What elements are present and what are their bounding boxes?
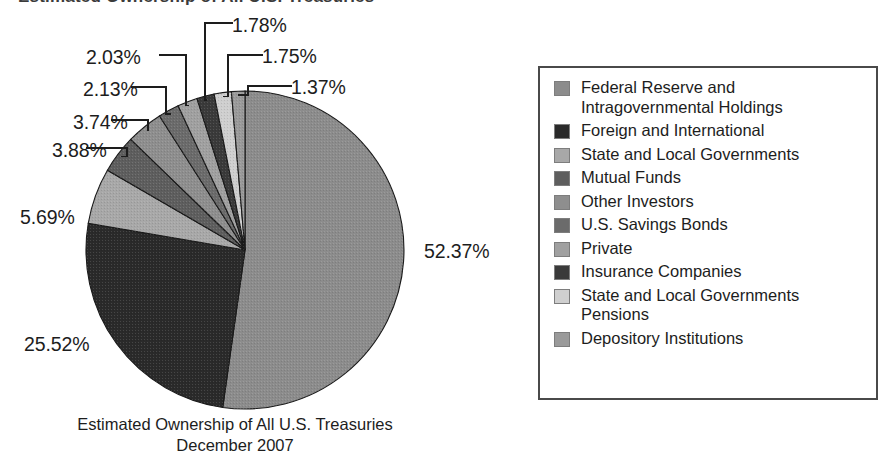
legend-swatch-icon — [554, 148, 570, 163]
caption-line-2: December 2007 — [0, 435, 470, 456]
pie-percent-label: 2.03% — [86, 46, 141, 69]
legend-swatch-icon — [554, 171, 570, 186]
pie-percent-label: 1.75% — [262, 45, 317, 68]
chart-legend: Federal Reserve and Intragovernmental Ho… — [538, 66, 878, 400]
legend-swatch-icon — [554, 195, 570, 210]
pie-percent-label: 1.78% — [232, 14, 287, 37]
legend-item-label: Insurance Companies — [581, 262, 742, 282]
pie-chart-area: 52.37%25.52%5.69%3.88%3.74%2.13%2.03%1.7… — [0, 0, 530, 470]
pie-percent-label: 2.13% — [83, 78, 138, 101]
legend-swatch-icon — [554, 81, 570, 96]
chart-figure: Estimated Ownership of All U.S. Treasuri… — [0, 0, 892, 470]
legend-swatch-icon — [554, 265, 570, 280]
pie-percent-label: 52.37% — [424, 240, 490, 263]
legend-swatch-icon — [554, 332, 570, 347]
legend-item[interactable]: Mutual Funds — [554, 168, 868, 188]
legend-item-label: Private — [581, 239, 632, 259]
legend-item[interactable]: Foreign and International — [554, 121, 868, 141]
legend-item[interactable]: Federal Reserve and Intragovernmental Ho… — [554, 78, 868, 117]
legend-item[interactable]: U.S. Savings Bonds — [554, 215, 868, 235]
legend-item-label: Other Investors — [581, 192, 694, 212]
leader-line — [223, 55, 263, 97]
legend-swatch-icon — [554, 242, 570, 257]
legend-item-label: Foreign and International — [581, 121, 764, 141]
pie-slice-texture — [86, 223, 245, 407]
pie-texture-overlay — [86, 91, 404, 409]
caption-line-1: Estimated Ownership of All U.S. Treasuri… — [0, 414, 470, 435]
legend-item-label: State and Local Governments — [581, 145, 799, 165]
pie-percent-label: 5.69% — [20, 206, 75, 229]
legend-item[interactable]: Depository Institutions — [554, 329, 868, 349]
pie-percent-label: 25.52% — [24, 333, 90, 356]
pie-percent-label: 1.37% — [291, 76, 346, 99]
legend-item[interactable]: Other Investors — [554, 192, 868, 212]
legend-item-label: Depository Institutions — [581, 329, 743, 349]
chart-caption: Estimated Ownership of All U.S. Treasuri… — [0, 414, 470, 456]
legend-swatch-icon — [554, 218, 570, 233]
legend-item-label: State and Local Governments Pensions — [581, 286, 799, 325]
pie-percent-label: 3.88% — [52, 139, 107, 162]
legend-item-label: Federal Reserve and Intragovernmental Ho… — [581, 78, 783, 117]
leader-line — [159, 55, 189, 106]
legend-swatch-icon — [554, 124, 570, 139]
legend-item-label: Mutual Funds — [581, 168, 681, 188]
legend-item[interactable]: Insurance Companies — [554, 262, 868, 282]
legend-swatch-icon — [554, 289, 570, 304]
pie-chart-svg — [0, 0, 530, 470]
pie-slice-texture — [223, 91, 404, 409]
legend-item-label: U.S. Savings Bonds — [581, 215, 728, 235]
legend-item[interactable]: State and Local Governments Pensions — [554, 286, 868, 325]
legend-item[interactable]: Private — [554, 239, 868, 259]
pie-percent-label: 3.74% — [73, 111, 128, 134]
legend-item[interactable]: State and Local Governments — [554, 145, 868, 165]
